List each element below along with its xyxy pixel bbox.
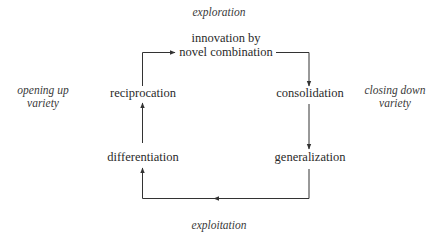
opening-up-line1: opening up bbox=[8, 84, 78, 97]
axis-label-exploration: exploration bbox=[190, 6, 248, 19]
innovation-line1: innovation by bbox=[176, 31, 276, 45]
node-differentiation: differentiation bbox=[104, 150, 182, 164]
arrow-reciprocation-to-innovation bbox=[143, 53, 176, 87]
node-consolidation: consolidation bbox=[272, 86, 348, 100]
node-generalization: generalization bbox=[272, 150, 348, 164]
axis-label-exploitation: exploitation bbox=[188, 219, 250, 232]
closing-down-line1: closing down bbox=[357, 84, 433, 97]
closing-down-line2: variety bbox=[357, 97, 433, 110]
node-reciprocation: reciprocation bbox=[104, 86, 182, 100]
node-innovation-by-novel-combination: innovation by novel combination bbox=[176, 31, 276, 59]
opening-up-line2: variety bbox=[8, 97, 78, 110]
axis-label-closing-down-variety: closing down variety bbox=[357, 84, 433, 110]
arrow-innovation-to-consolidation bbox=[276, 53, 309, 87]
arrow-generalization-to-differentiation bbox=[143, 168, 310, 199]
innovation-line2: novel combination bbox=[176, 45, 276, 59]
axis-label-opening-up-variety: opening up variety bbox=[8, 84, 78, 110]
